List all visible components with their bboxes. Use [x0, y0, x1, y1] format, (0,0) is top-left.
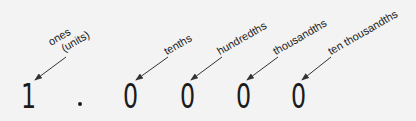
decimal-point — [78, 102, 82, 106]
arrow-thousandths — [247, 57, 278, 80]
digit-hundredths: 0 — [180, 80, 195, 113]
arrow-ones — [35, 57, 66, 80]
digit-ten-thousandths: 0 — [291, 80, 306, 113]
digit-thousandths: 0 — [236, 80, 251, 113]
arrow-tenths — [136, 57, 168, 80]
arrows-layer — [0, 0, 416, 121]
digit-ones: 1 — [21, 80, 36, 113]
arrow-ten-thousandths — [302, 57, 331, 80]
arrow-hundredths — [191, 57, 222, 80]
digit-tenths: 0 — [123, 80, 138, 113]
